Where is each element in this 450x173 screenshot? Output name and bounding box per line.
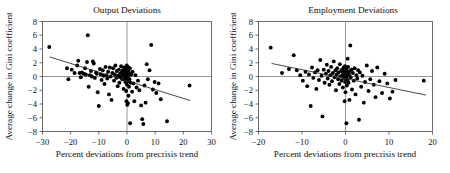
svg-text:−6: −6 (28, 113, 38, 123)
svg-text:6: 6 (249, 30, 254, 40)
svg-text:4: 4 (33, 44, 38, 54)
y-axis-label: Average change in Gini coefficient (4, 12, 14, 141)
svg-text:−4: −4 (244, 99, 254, 109)
svg-text:10: 10 (151, 137, 160, 147)
svg-text:−8: −8 (244, 127, 253, 137)
svg-text:0: 0 (125, 137, 129, 147)
chart-panel-output-deviations: Output Deviations −30−20−100102030 86420… (0, 0, 225, 173)
y-axis-ticks: 86420−2−4−6−8 (28, 17, 43, 137)
svg-text:−20: −20 (64, 137, 77, 147)
x-axis-ticks: −20−1001020 (252, 132, 437, 147)
svg-text:0: 0 (249, 72, 253, 82)
data-points (47, 33, 191, 126)
svg-text:4: 4 (249, 44, 254, 54)
figure-container: Output Deviations −30−20−100102030 86420… (0, 0, 450, 173)
svg-text:10: 10 (385, 137, 394, 147)
x-axis-ticks: −30−20−100102030 (36, 132, 216, 147)
svg-text:2: 2 (33, 58, 37, 68)
svg-text:−6: −6 (244, 113, 254, 123)
y-axis-ticks: 86420−2−4−6−8 (244, 17, 259, 137)
svg-text:0: 0 (33, 72, 37, 82)
svg-text:−4: −4 (28, 99, 38, 109)
svg-text:−30: −30 (36, 137, 49, 147)
x-axis-label: Percent deviations from precrisis trend (274, 149, 417, 159)
scatter-plot-employment: Employment Deviations −20−1001020 86420−… (225, 0, 450, 173)
svg-text:−2: −2 (28, 85, 37, 95)
svg-text:6: 6 (33, 30, 38, 40)
regression-line (50, 57, 191, 101)
x-axis-label: Percent deviations from precrisis trend (56, 149, 199, 159)
svg-text:−20: −20 (252, 137, 265, 147)
svg-text:0: 0 (343, 137, 347, 147)
svg-text:20: 20 (179, 137, 188, 147)
svg-text:20: 20 (428, 137, 437, 147)
data-points (269, 44, 426, 126)
y-axis-label: Average change in Gini coefficient (228, 12, 238, 141)
svg-text:−2: −2 (244, 85, 253, 95)
svg-text:8: 8 (33, 17, 37, 27)
svg-text:−10: −10 (92, 137, 105, 147)
chart-panel-employment-deviations: Employment Deviations −20−1001020 86420−… (225, 0, 450, 173)
svg-text:30: 30 (207, 137, 216, 147)
svg-text:2: 2 (249, 58, 253, 68)
svg-text:−8: −8 (28, 127, 37, 137)
chart-title: Employment Deviations (308, 5, 398, 15)
svg-text:8: 8 (249, 17, 253, 27)
scatter-plot-output: Output Deviations −30−20−100102030 86420… (0, 0, 225, 173)
chart-title: Output Deviations (93, 5, 161, 15)
svg-text:−10: −10 (295, 137, 308, 147)
